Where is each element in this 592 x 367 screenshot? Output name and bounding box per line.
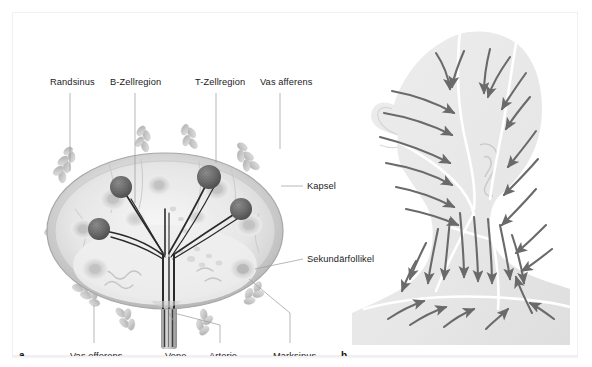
panel-b-head-neck-lymph-drainage: b	[340, 13, 577, 355]
figure-baseline-shadow	[12, 356, 578, 359]
head-neck-drainage-illustration	[340, 13, 580, 357]
mouth-profile	[380, 145, 398, 148]
label-randsinus: Randsinus	[50, 77, 95, 88]
label-t-zellregion: T-Zellregion	[195, 77, 245, 88]
label-vas-afferens: Vas afferens	[260, 77, 313, 88]
lymph-node-illustration	[13, 13, 353, 357]
label-b-zellregion: B-Zellregion	[110, 77, 161, 88]
label-kapsel: Kapsel	[307, 181, 336, 192]
panel-a-lymph-node-cross-section: Randsinus B-Zellregion T-Zellregion Vas …	[13, 13, 340, 355]
figure-frame: Randsinus B-Zellregion T-Zellregion Vas …	[12, 12, 578, 356]
